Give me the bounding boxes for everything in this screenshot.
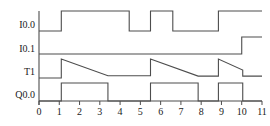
waveform-t1 bbox=[39, 59, 262, 78]
x-axis-ticks bbox=[39, 101, 262, 105]
x-axis-tick-labels: 01234567891011 bbox=[37, 106, 267, 117]
x-tick-label-3: 3 bbox=[97, 106, 102, 117]
waveform-i00 bbox=[39, 11, 262, 31]
x-tick-label-4: 4 bbox=[118, 106, 123, 117]
x-tick-label-8: 8 bbox=[199, 106, 204, 117]
x-tick-label-6: 6 bbox=[158, 106, 163, 117]
x-tick-label-7: 7 bbox=[178, 106, 183, 117]
x-tick-label-1: 1 bbox=[57, 106, 62, 117]
x-tick-label-11: 11 bbox=[257, 106, 267, 117]
x-tick-label-0: 0 bbox=[37, 106, 42, 117]
waveform-q00 bbox=[39, 83, 262, 101]
x-tick-label-9: 9 bbox=[219, 106, 224, 117]
waveforms bbox=[39, 11, 262, 101]
signal-row-labels: I0.0 I0.1 T1 Q0.0 bbox=[15, 19, 35, 100]
waveform-i01 bbox=[39, 37, 262, 54]
x-tick-label-10: 10 bbox=[237, 106, 247, 117]
x-tick-label-5: 5 bbox=[138, 106, 143, 117]
signal-label-q00: Q0.0 bbox=[15, 89, 35, 100]
timing-diagram-svg: I0.0 I0.1 T1 Q0.0 01234567891011 bbox=[0, 0, 270, 126]
signal-label-i01: I0.1 bbox=[19, 43, 35, 54]
signal-label-i00: I0.0 bbox=[19, 19, 35, 30]
timing-diagram-figure: I0.0 I0.1 T1 Q0.0 01234567891011 bbox=[0, 0, 270, 126]
signal-label-t1: T1 bbox=[24, 66, 35, 77]
x-tick-label-2: 2 bbox=[77, 106, 82, 117]
